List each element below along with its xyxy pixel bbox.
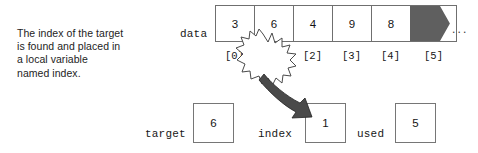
array-label-data: data bbox=[180, 28, 207, 40]
array-index-labels: [0] [1] [2] [3] [4] [5] bbox=[215, 50, 457, 66]
variable-box-target: 6 bbox=[193, 103, 234, 143]
index-label-1: [1] bbox=[254, 50, 293, 66]
index-label-5: [5] bbox=[410, 50, 457, 66]
index-label-2: [2] bbox=[293, 50, 332, 66]
index-label-3: [3] bbox=[332, 50, 371, 66]
array-cell-1: 6 bbox=[254, 5, 293, 42]
array-ellipsis: ... bbox=[452, 22, 469, 36]
caption-line-1: The index of the target bbox=[17, 27, 167, 40]
array-cell-2: 4 bbox=[293, 5, 332, 42]
array-cell-4: 8 bbox=[371, 5, 410, 42]
array-index-diagram: The index of the target is found and pla… bbox=[0, 0, 478, 153]
caption-text: The index of the target is found and pla… bbox=[17, 27, 167, 80]
caption-line-2: is found and placed in bbox=[17, 40, 167, 53]
array-cell-3: 9 bbox=[332, 5, 371, 42]
variable-box-index: 1 bbox=[305, 103, 346, 143]
array-row: 3 6 4 9 8 bbox=[215, 5, 457, 42]
index-label-0: [0] bbox=[215, 50, 254, 66]
caption-line-3: a local variable bbox=[17, 53, 167, 66]
array-cell-0: 3 bbox=[215, 5, 254, 42]
index-label-4: [4] bbox=[371, 50, 410, 66]
variable-box-used: 5 bbox=[395, 103, 436, 143]
variable-label-index: index bbox=[258, 128, 292, 140]
variable-label-used: used bbox=[357, 128, 384, 140]
array-cell-unused bbox=[410, 5, 457, 42]
caption-line-4: named index. bbox=[17, 67, 167, 80]
variable-label-target: target bbox=[145, 128, 186, 140]
